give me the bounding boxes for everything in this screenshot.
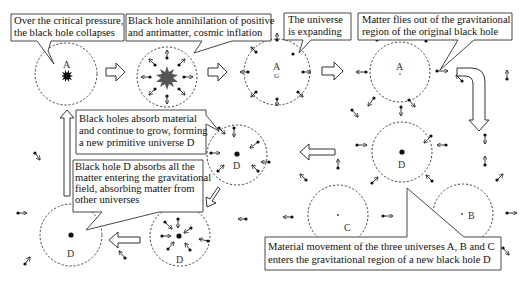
- universe-label: D: [233, 160, 240, 171]
- universe-label: A: [273, 61, 281, 72]
- universe-d-middle: D: [207, 125, 271, 185]
- svg-text:and antimatter, cosmic inflati: and antimatter, cosmic inflation: [128, 27, 263, 38]
- svg-text:other universes: other universes: [75, 194, 139, 205]
- universe-label: B: [468, 210, 475, 221]
- diagram-canvas: A A G: [0, 0, 531, 282]
- starburst-icon: [156, 66, 178, 90]
- callout-matter-flies: Matter flies out of the gravitational re…: [358, 13, 512, 70]
- svg-text:field, absorbing matter from: field, absorbing matter from: [75, 183, 195, 194]
- svg-text:Over the critical pressure,: Over the critical pressure,: [14, 15, 123, 26]
- callout-expanding: The universe is expanding: [284, 13, 351, 53]
- black-hole-icon: [61, 70, 73, 82]
- svg-text:enters the gravitational regio: enters the gravitational region of a new…: [268, 254, 491, 265]
- svg-text:region of the original black h: region of the original black hole: [362, 26, 499, 37]
- svg-text:Black holes absorb material: Black holes absorb material: [79, 113, 197, 124]
- callout-critical-pressure: Over the critical pressure, the black ho…: [11, 14, 124, 64]
- universe-label: A: [396, 61, 404, 72]
- svg-text:Black hole annihilation of pos: Black hole annihilation of positive: [128, 15, 275, 26]
- callout-three-universes: Material movement of the three universes…: [265, 188, 501, 270]
- universe-label: D: [176, 254, 183, 265]
- universe-label: C: [344, 222, 351, 233]
- flow-arrow-right-3: [322, 62, 343, 80]
- svg-text:Black hole D absorbs all the: Black hole D absorbs all the: [75, 161, 195, 172]
- universe-d-new: D: [40, 204, 102, 266]
- cosmology-diagram: A A G: [0, 0, 531, 282]
- stray-particles: [16, 151, 40, 265]
- flow-arrow-right-1: [106, 63, 125, 81]
- flow-arrow-left-1: [300, 144, 335, 160]
- universe-label: D: [67, 248, 74, 259]
- svg-text:is expanding: is expanding: [288, 26, 343, 37]
- universe-a-expanding: A G: [240, 33, 311, 106]
- flow-arrow-right-2: [208, 63, 227, 81]
- flow-arrow-left-2: [109, 232, 140, 248]
- callout-absorb-all: Black hole D absorbs all the matter ente…: [73, 160, 211, 230]
- flow-arrow-diag-down: [206, 187, 220, 207]
- svg-text:The universe: The universe: [288, 14, 343, 25]
- callout-absorb-grow: Black holes absorb material and continue…: [76, 110, 219, 154]
- svg-text:a new primitive universe D: a new primitive universe D: [79, 137, 195, 148]
- svg-text:and continue to grow, forming: and continue to grow, forming: [79, 125, 208, 136]
- universe-c: C: [283, 185, 393, 245]
- svg-text:Matter flies out of the gravit: Matter flies out of the gravitational: [362, 14, 511, 25]
- svg-text:matter entering the gravitatio: matter entering the gravitational: [75, 172, 211, 183]
- svg-text:the black hole collapses: the black hole collapses: [14, 27, 115, 38]
- universe-a-collapse: A: [35, 43, 97, 105]
- callout-annihilation: Black hole annihilation of positive and …: [126, 14, 275, 53]
- flow-arrow-curved-down: [457, 68, 489, 131]
- universe-label: A: [63, 59, 71, 70]
- universe-label: D: [398, 159, 405, 170]
- svg-text:Material movement of the three: Material movement of the three universes…: [268, 241, 495, 252]
- flow-arrow-up: [60, 110, 74, 196]
- universe-sublabel: G: [274, 72, 279, 80]
- universe-a-inflation: [137, 47, 197, 107]
